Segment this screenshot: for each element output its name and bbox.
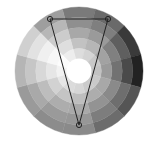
color-wheel-picker[interactable]: [0, 0, 154, 145]
harmony-triangle-overlay: [0, 0, 154, 145]
harmony-triangle: [50, 19, 108, 125]
